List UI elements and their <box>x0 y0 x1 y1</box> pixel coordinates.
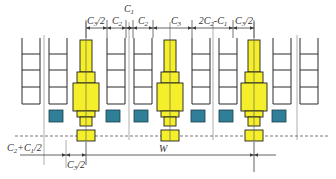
yellow-column <box>157 22 183 141</box>
dimension-label-d3: C1 <box>124 3 134 16</box>
rack-frame <box>134 38 152 104</box>
rack-frame <box>107 38 125 104</box>
label-w: W <box>159 143 169 154</box>
pallet-block <box>272 110 286 122</box>
rack-frame <box>192 38 210 104</box>
rack-frame <box>300 38 318 104</box>
pallet-block <box>134 110 148 122</box>
dimension-label-d5: C3 <box>171 15 182 28</box>
pallet-block <box>191 110 205 122</box>
dimension-label-d7: C3/2 <box>235 15 253 28</box>
rack-frame <box>273 38 291 104</box>
label-c2-plus-c1-half: C2+C1/2 <box>7 142 42 155</box>
yellow-column <box>73 22 99 141</box>
rack-frame <box>22 38 40 104</box>
rack-frame <box>219 38 237 104</box>
pallet-block <box>219 110 233 122</box>
pallet-block <box>49 110 63 122</box>
bottom-dimension-chain <box>20 142 276 172</box>
yellow-columns <box>73 22 267 141</box>
dimension-label-d4: C2 <box>138 15 149 28</box>
pallet-block <box>106 110 120 122</box>
rack-column-layout-diagram: C3/2C2C1C2C32C2-C1C3/2 C2+C1/2 C3/2 W <box>0 0 336 179</box>
rack-frame <box>49 38 67 104</box>
dimension-label-d2: C2 <box>112 15 123 28</box>
label-c3-half-bottom: C3/2 <box>67 159 85 172</box>
dimension-label-d6: 2C2-C1 <box>199 15 228 28</box>
dimension-label-d1: C3/2 <box>87 15 105 28</box>
yellow-column <box>241 22 267 141</box>
